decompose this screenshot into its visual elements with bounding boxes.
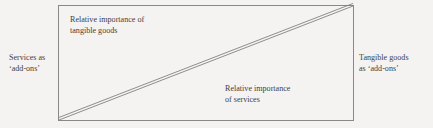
annotation-services: Relative importance of services — [225, 83, 290, 106]
annotation-tangible-goods-line2: tangible goods — [70, 25, 144, 36]
right-axis-label-line2: as ‘add-ons’ — [359, 63, 409, 74]
left-axis-label: Services as ‘add-ons’ — [9, 52, 45, 74]
annotation-services-line2: of services — [225, 94, 290, 105]
annotation-tangible-goods-line1: Relative importance of — [70, 14, 144, 25]
goods-services-continuum-figure: Services as ‘add-ons’ Tangible goods as … — [0, 0, 433, 128]
plot-area-box: Relative importance of tangible goods Re… — [58, 5, 354, 121]
annotation-services-line1: Relative importance — [225, 83, 290, 94]
right-axis-label-line1: Tangible goods — [359, 52, 409, 63]
annotation-tangible-goods: Relative importance of tangible goods — [70, 14, 144, 37]
left-axis-label-line1: Services as — [9, 52, 45, 63]
left-axis-label-line2: ‘add-ons’ — [9, 63, 45, 74]
right-axis-label: Tangible goods as ‘add-ons’ — [359, 52, 409, 74]
